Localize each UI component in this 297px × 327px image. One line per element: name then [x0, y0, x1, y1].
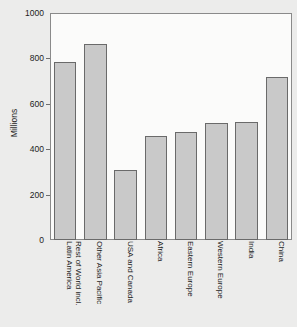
bar-slot	[262, 13, 292, 240]
bar-slot	[171, 13, 201, 240]
bars-layer	[50, 13, 292, 240]
y-tick-label: 0	[6, 235, 44, 245]
y-tick-mark	[46, 104, 50, 105]
bar-chart: Millions 02004006008001000 Rest of World…	[0, 0, 297, 327]
x-label-slot: USA and Canada	[111, 241, 141, 325]
bar-slot	[232, 13, 262, 240]
y-tick-label: 400	[6, 144, 44, 154]
x-label-slot: Rest of World incl.Latin America	[50, 241, 80, 325]
x-tick-label: Eastern Europe	[186, 241, 195, 297]
y-tick-label: 800	[6, 53, 44, 63]
bar	[205, 123, 227, 240]
y-tick-label: 200	[6, 190, 44, 200]
x-tick-label: Western Europe	[216, 241, 225, 299]
x-label-slot: Africa	[141, 241, 171, 325]
x-tick-label: USA and Canada	[126, 241, 135, 303]
bar-slot	[201, 13, 231, 240]
y-tick-mark	[46, 149, 50, 150]
bar	[175, 132, 197, 240]
bar-slot	[141, 13, 171, 240]
x-tick-label: Africa	[156, 241, 165, 261]
y-tick-label: 1000	[6, 8, 44, 18]
bar	[54, 62, 76, 240]
y-axis-tick-labels: 02004006008001000	[6, 0, 44, 327]
bar-slot	[50, 13, 80, 240]
x-label-slot: Other Asia Pacific	[80, 241, 110, 325]
bar	[266, 77, 288, 240]
x-label-slot: Western Europe	[201, 241, 231, 325]
y-tick-label: 600	[6, 99, 44, 109]
bar	[84, 44, 106, 240]
x-label-slot: Eastern Europe	[171, 241, 201, 325]
x-axis-tick-labels: Rest of World incl.Latin AmericaOther As…	[50, 241, 292, 325]
x-tick-label: China	[277, 241, 286, 262]
bar	[235, 122, 257, 240]
bar	[145, 136, 167, 240]
x-tick-label: Other Asia Pacific	[95, 241, 104, 304]
x-tick-label: India	[247, 241, 256, 258]
x-label-slot: China	[262, 241, 292, 325]
x-label-slot: India	[232, 241, 262, 325]
y-tick-mark	[46, 58, 50, 59]
y-tick-mark	[46, 195, 50, 196]
bar	[114, 170, 136, 240]
bar-slot	[111, 13, 141, 240]
bar-slot	[80, 13, 110, 240]
